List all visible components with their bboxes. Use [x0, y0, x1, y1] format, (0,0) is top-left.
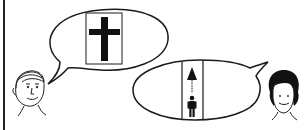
man-face-icon — [13, 71, 46, 116]
illustration-svg — [0, 0, 304, 130]
cross-icon — [86, 13, 122, 64]
speech-bubble-right — [133, 60, 268, 120]
illustration-canvas — [0, 0, 304, 130]
woman-face-icon — [269, 70, 299, 120]
